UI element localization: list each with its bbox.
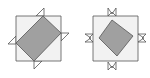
bowtie-flag bbox=[85, 34, 93, 42]
geometric-figures bbox=[0, 0, 150, 78]
diamond-square-figure bbox=[85, 8, 146, 70]
corner-flag bbox=[36, 8, 44, 16]
tilted-square-figure bbox=[8, 8, 69, 69]
corner-flag bbox=[34, 61, 42, 69]
bowtie-flag bbox=[108, 8, 116, 16]
corner-flag bbox=[61, 33, 69, 41]
bowtie-flag bbox=[108, 62, 116, 70]
corner-flag bbox=[8, 36, 16, 44]
diagram-canvas bbox=[0, 0, 150, 78]
bowtie-flag bbox=[138, 34, 146, 42]
